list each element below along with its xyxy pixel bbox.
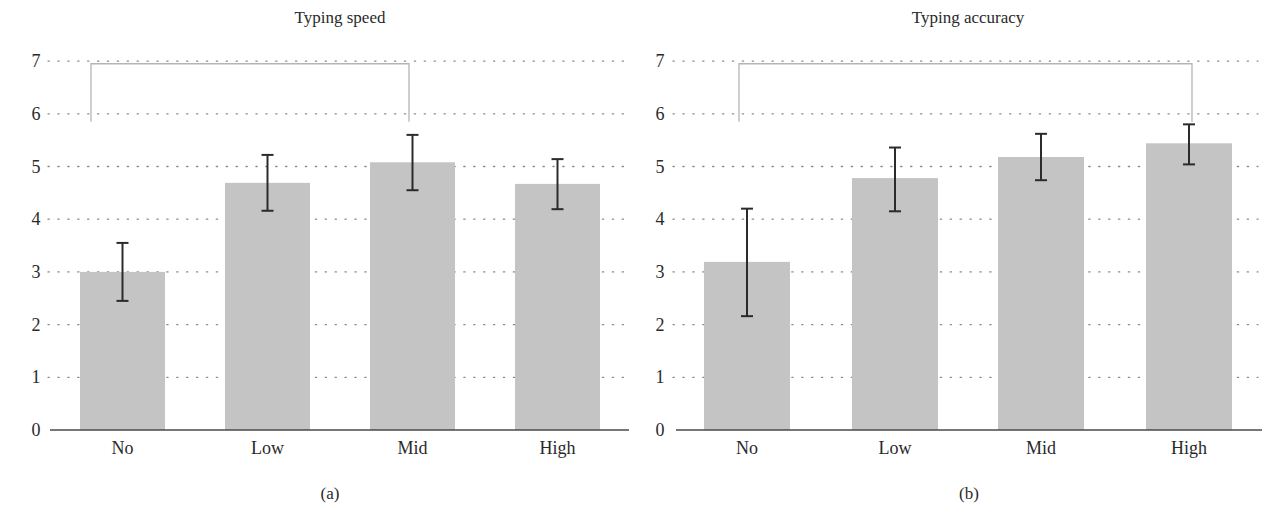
y-tick-label: 2 [656,315,665,335]
y-tick-label: 4 [656,209,665,229]
significance-bracket [739,64,1192,122]
significance-bracket [91,64,409,122]
x-category-label: Low [251,438,284,458]
x-category-label: No [736,438,758,458]
typing-accuracy-chart: Typing accuracy01234567NoLowMidHigh(b) [656,8,1263,503]
bar-high [1146,143,1232,430]
chart-title: Typing speed [295,8,386,27]
x-category-label: No [112,438,134,458]
bar-low [225,183,310,430]
y-tick-label: 5 [656,157,665,177]
y-tick-label: 6 [656,104,665,124]
chart-title: Typing accuracy [912,8,1025,27]
y-tick-label: 6 [32,104,41,124]
x-category-label: Mid [397,438,427,458]
y-tick-label: 0 [32,420,41,440]
panel-label: (a) [321,484,340,503]
bar-mid [370,162,455,430]
y-tick-label: 1 [656,367,665,387]
bar-mid [998,157,1084,430]
figure: Typing speed01234567NoLowMidHigh(a) Typi… [0,0,1281,522]
x-category-label: High [540,438,576,458]
x-category-label: Low [879,438,912,458]
typing-speed-chart: Typing speed01234567NoLowMidHigh(a) [32,8,630,503]
bar-high [515,184,600,430]
y-tick-label: 4 [32,209,41,229]
y-tick-label: 3 [32,262,41,282]
y-tick-label: 5 [32,157,41,177]
y-tick-label: 0 [656,420,665,440]
x-category-label: Mid [1026,438,1056,458]
y-tick-label: 1 [32,367,41,387]
bar-charts: Typing speed01234567NoLowMidHigh(a) Typi… [0,0,1281,522]
y-tick-label: 2 [32,315,41,335]
panel-label: (b) [959,484,979,503]
y-tick-label: 7 [32,51,41,71]
y-tick-label: 3 [656,262,665,282]
bar-low [852,178,938,430]
y-tick-label: 7 [656,51,665,71]
x-category-label: High [1171,438,1207,458]
